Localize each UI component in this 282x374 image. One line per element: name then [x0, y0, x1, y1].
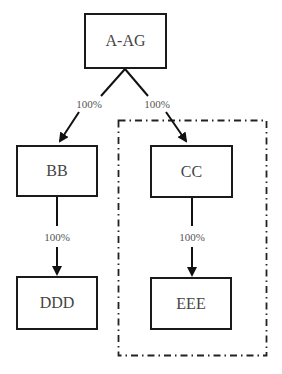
node-label: A-AG — [106, 32, 146, 50]
edge-aag-cc-arrow — [166, 112, 186, 141]
edge-aag-cc — [125, 69, 148, 96]
node-label: DDD — [40, 294, 75, 312]
node-ddd: DDD — [16, 276, 98, 330]
edge-label-aag-cc: 100% — [143, 98, 171, 110]
node-a-ag: A-AG — [84, 13, 167, 69]
node-cc: CC — [150, 145, 233, 198]
edge-aag-bb — [101, 69, 125, 96]
edge-aag-bb-arrow — [60, 112, 79, 141]
ownership-diagram: A-AG BB CC DDD EEE 100% 100% 100% 100% — [0, 0, 282, 374]
node-bb: BB — [16, 145, 98, 197]
node-label: CC — [181, 163, 202, 181]
node-eee: EEE — [150, 277, 232, 330]
node-label: EEE — [176, 295, 205, 313]
edge-label-cc-eee: 100% — [178, 231, 206, 243]
edge-label-bb-ddd: 100% — [43, 231, 71, 243]
node-label: BB — [46, 162, 67, 180]
edge-label-aag-bb: 100% — [75, 98, 103, 110]
